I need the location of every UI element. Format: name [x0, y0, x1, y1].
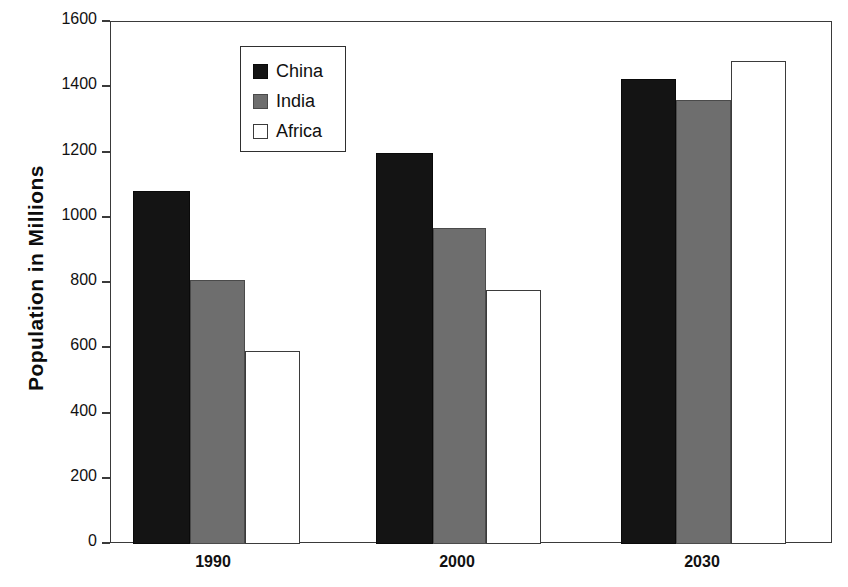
- legend-item-africa: Africa: [253, 116, 345, 146]
- legend-swatch-africa-icon: [253, 124, 268, 139]
- plot-area: [110, 21, 832, 543]
- x-axis-label-1990: 1990: [173, 553, 253, 571]
- y-tick-label-800: 800: [70, 271, 97, 289]
- y-tick-label-1400: 1400: [61, 75, 97, 93]
- y-tick-mark-1200: [102, 151, 110, 153]
- y-tick-mark-800: [102, 281, 110, 283]
- y-tick-mark-1000: [102, 216, 110, 218]
- y-tick-mark-400: [102, 412, 110, 414]
- y-tick-mark-200: [102, 477, 110, 479]
- y-tick-label-200: 200: [70, 467, 97, 485]
- bar-india-1990: [190, 280, 245, 544]
- y-tick-label-0: 0: [88, 532, 97, 550]
- y-tick-mark-600: [102, 346, 110, 348]
- legend-swatch-india-icon: [253, 94, 268, 109]
- legend-label-india: India: [276, 91, 315, 112]
- bar-india-2030: [676, 100, 731, 544]
- chart-legend: China India Africa: [240, 46, 346, 152]
- bar-india-2000: [433, 228, 486, 544]
- y-tick-label-1600: 1600: [61, 10, 97, 28]
- y-axis-title: Population in Millions: [24, 78, 48, 478]
- x-axis-label-2000: 2000: [417, 553, 497, 571]
- legend-swatch-china-icon: [253, 64, 268, 79]
- bar-africa-1990: [245, 351, 300, 544]
- bar-china-2030: [621, 79, 676, 544]
- bar-africa-2000: [486, 290, 541, 544]
- legend-item-china: China: [253, 56, 345, 86]
- y-tick-mark-0: [102, 542, 110, 544]
- y-tick-mark-1400: [102, 85, 110, 87]
- y-tick-label-1200: 1200: [61, 141, 97, 159]
- bar-chart-figure: Population in Millions 0 200 400 600 800…: [0, 0, 848, 587]
- bar-china-2000: [376, 153, 433, 544]
- legend-label-africa: Africa: [276, 121, 322, 142]
- y-tick-mark-1600: [102, 20, 110, 22]
- y-tick-label-1000: 1000: [61, 206, 97, 224]
- bar-china-1990: [133, 191, 190, 544]
- bar-africa-2030: [731, 61, 786, 544]
- y-tick-label-600: 600: [70, 336, 97, 354]
- x-axis-label-2030: 2030: [662, 553, 742, 571]
- legend-label-china: China: [276, 61, 323, 82]
- legend-item-india: India: [253, 86, 345, 116]
- y-tick-label-400: 400: [70, 402, 97, 420]
